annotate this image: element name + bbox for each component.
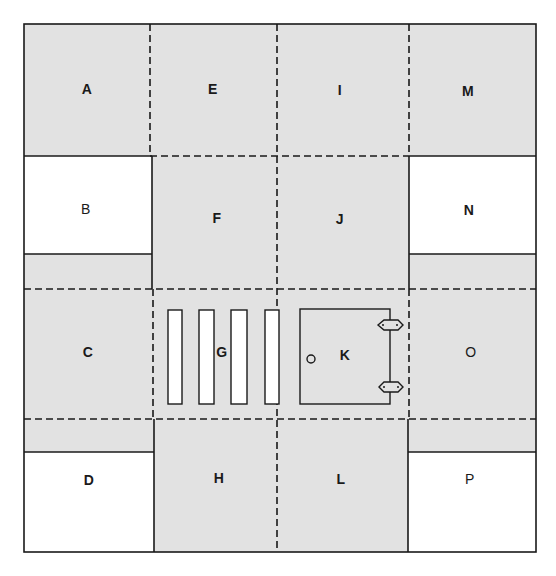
- region-label-j: J: [336, 211, 344, 227]
- region-label-k: K: [340, 347, 351, 363]
- region-label-b: B: [81, 201, 91, 217]
- bar-2: [199, 310, 214, 404]
- handle-bottom: [379, 382, 403, 392]
- bar-4: [265, 310, 279, 404]
- region-label-d: D: [84, 472, 95, 488]
- region-d-fill: [24, 452, 154, 552]
- floor-plan-diagram: A B C D E F G H I J K L M N O P: [0, 0, 556, 576]
- region-label-i: I: [338, 82, 342, 98]
- region-label-a: A: [82, 81, 93, 97]
- region-label-e: E: [208, 81, 218, 97]
- region-label-p: P: [465, 471, 475, 487]
- region-p-fill: [408, 452, 536, 552]
- region-label-m: M: [462, 83, 474, 99]
- region-label-g: G: [216, 344, 227, 360]
- region-label-l: L: [336, 471, 345, 487]
- region-label-f: F: [212, 210, 221, 226]
- region-label-n: N: [464, 202, 475, 218]
- region-label-h: H: [214, 470, 225, 486]
- region-label-c: C: [83, 344, 94, 360]
- handle-top: [378, 320, 403, 330]
- region-label-o: O: [465, 344, 476, 360]
- bar-3: [231, 310, 247, 404]
- bar-1: [168, 310, 182, 404]
